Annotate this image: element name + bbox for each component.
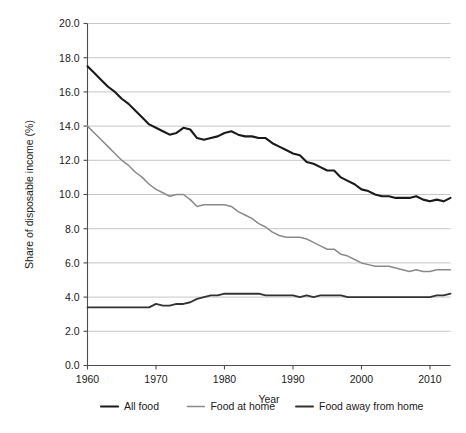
legend-label-all-food: All food — [124, 400, 159, 412]
gridlines — [88, 24, 451, 366]
y-axis-tick-label: 12.0 — [59, 154, 80, 166]
data-series — [88, 66, 451, 307]
y-axis-title: Share of disposable income (%) — [23, 120, 35, 269]
y-axis-tick-label: 16.0 — [59, 86, 80, 98]
legend-label-food-away-from-home: Food away from home — [319, 400, 424, 412]
y-axis-tick-label: 4.0 — [65, 291, 80, 303]
y-axis-tick-label: 0.0 — [65, 359, 80, 371]
x-axis-tick-label: 2000 — [350, 373, 374, 385]
x-axis-tick-label: 1980 — [213, 373, 237, 385]
axes — [84, 24, 451, 370]
x-axis-tick-label: 1970 — [144, 373, 168, 385]
y-axis-tick-label: 10.0 — [59, 188, 80, 200]
x-axis-tick-labels: 196019701980199020002010 — [76, 373, 442, 385]
x-axis-tick-label: 2010 — [418, 373, 442, 385]
y-axis-tick-label: 14.0 — [59, 120, 80, 132]
y-axis-tick-label: 6.0 — [65, 257, 80, 269]
chart-container: 0.02.04.06.08.010.012.014.016.018.020.0 … — [0, 0, 466, 433]
y-axis-tick-labels: 0.02.04.06.08.010.012.014.016.018.020.0 — [59, 17, 80, 371]
y-axis-tick-label: 8.0 — [65, 223, 80, 235]
y-axis-tick-label: 2.0 — [65, 325, 80, 337]
chart-legend: All foodFood at homeFood away from home — [101, 400, 424, 412]
y-axis-tick-label: 20.0 — [59, 17, 80, 29]
series-line-all-food — [88, 66, 451, 201]
x-axis-tick-label: 1960 — [76, 373, 100, 385]
x-axis-tick-label: 1990 — [281, 373, 305, 385]
series-line-food-away-from-home — [88, 294, 451, 308]
y-axis-tick-label: 18.0 — [59, 52, 80, 64]
line-chart: 0.02.04.06.08.010.012.014.016.018.020.0 … — [0, 0, 466, 433]
legend-label-food-at-home: Food at home — [210, 400, 275, 412]
y-axis-title-text: Share of disposable income (%) — [23, 120, 35, 269]
